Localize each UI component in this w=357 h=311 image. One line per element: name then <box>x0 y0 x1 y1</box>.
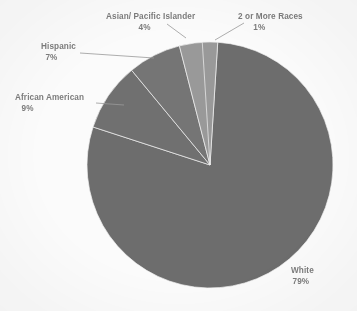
slice-label-hispanic: Hispanic 7% <box>41 42 76 63</box>
pie-chart-figure: Asian/ Pacific Islander 4% 2 or More Rac… <box>0 0 357 311</box>
slice-label-white-name: White <box>291 266 314 275</box>
slice-label-hispanic-name: Hispanic <box>41 42 76 51</box>
slice-label-asian-name: Asian/ Pacific Islander <box>106 12 195 21</box>
slice-label-asian-pacific-islander: Asian/ Pacific Islander 4% <box>106 12 195 33</box>
slice-label-asian-pct: 4% <box>94 23 195 34</box>
slice-label-african-american-pct: 9% <box>0 104 84 115</box>
slice-label-white-pct: 79% <box>288 277 314 288</box>
slice-label-hispanic-pct: 7% <box>27 53 76 64</box>
slice-label-two-or-more-races: 2 or More Races 1% <box>238 12 303 33</box>
slice-label-two-or-more-name: 2 or More Races <box>238 12 303 21</box>
pie-slices-group <box>87 42 333 288</box>
slice-label-african-american: African American 9% <box>15 93 84 114</box>
leader-line-hispanic <box>80 53 154 58</box>
slice-label-white: White 79% <box>291 266 314 287</box>
slice-label-two-or-more-pct: 1% <box>216 23 303 34</box>
slice-label-african-american-name: African American <box>15 93 84 102</box>
